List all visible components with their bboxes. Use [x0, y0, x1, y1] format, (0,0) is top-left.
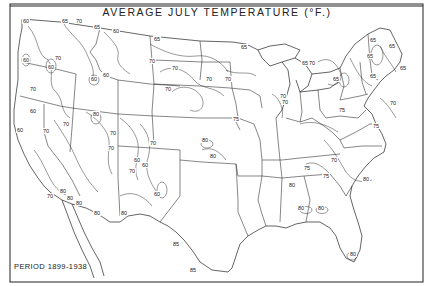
isotherm-label: 80 — [350, 251, 356, 257]
isotherm-label: 60 — [113, 28, 119, 34]
isotherm-label: 65 — [367, 53, 373, 59]
map-title: AVERAGE JULY TEMPERATURE (°F.) — [0, 6, 434, 18]
isotherm-label: 70 — [282, 99, 288, 105]
period-label: PERIOD 1899-1938 — [14, 262, 87, 271]
isotherm-label: 60 — [23, 18, 29, 24]
isotherm-label: 70 — [331, 157, 337, 163]
isotherm-label: 60 — [142, 162, 148, 168]
isotherm-label: 65 — [241, 44, 247, 50]
isotherm-label: 75 — [304, 165, 310, 171]
isotherm-label: 70 — [206, 76, 212, 82]
isotherm-label: 70 — [165, 86, 171, 92]
isotherm-label: 80 — [210, 153, 216, 159]
isotherm-label: 60 — [154, 191, 160, 197]
isotherm-label: 65 — [94, 24, 100, 30]
isotherm-label: 60 — [48, 64, 54, 70]
isotherm-label: 60 — [17, 127, 23, 133]
isotherm-label: 70 — [63, 121, 69, 127]
isotherm-label: 65 — [370, 73, 376, 79]
isotherm-label: 80 — [94, 210, 100, 216]
isotherm-label: 65 — [154, 36, 160, 42]
isotherm-label: 80 — [76, 200, 82, 206]
isotherm-label: 75 — [373, 123, 379, 129]
isotherm-label: 65 — [333, 76, 339, 82]
isotherm-label: 60 — [103, 72, 109, 78]
isotherm-label: 60 — [91, 76, 97, 82]
isotherm-label: 65 — [302, 60, 308, 66]
isotherm-label: 70 — [225, 76, 231, 82]
isotherm-label: 80 — [121, 210, 127, 216]
isotherm-label: 75 — [323, 173, 329, 179]
isotherm-label: 70 — [108, 145, 114, 151]
isotherm-label: 70 — [172, 65, 178, 71]
isotherm-label: 80 — [60, 188, 66, 194]
isotherm-label: 70 — [30, 86, 36, 92]
map-drawing: 6065706560706060606065707070707065707075… — [0, 0, 434, 286]
isotherm-label: 80 — [363, 176, 369, 182]
isotherm-label: 65 — [370, 37, 376, 43]
isotherm-label: 85 — [190, 267, 196, 273]
isotherm-label: 60 — [30, 108, 36, 114]
isotherm-label: 70 — [47, 193, 53, 199]
isotherm-label: 85 — [173, 241, 179, 247]
temperature-map: 6065706560706060606065707070707065707075… — [0, 0, 434, 286]
isotherm-label: 70 — [129, 168, 135, 174]
isotherm-label: 70 — [149, 58, 155, 64]
isotherm-label: 65 — [400, 65, 406, 71]
isotherm-label: 70 — [76, 18, 82, 24]
isotherm-label: 80 — [202, 137, 208, 143]
isotherm-label: 70 — [55, 55, 61, 61]
isotherm-label: 60 — [134, 157, 140, 163]
isotherm-label: 70 — [390, 100, 396, 106]
isotherm-label: 75 — [339, 107, 345, 113]
isotherm-label: 70 — [150, 140, 156, 146]
isotherm-label: 80 — [318, 205, 324, 211]
isotherm-label: 80 — [93, 111, 99, 117]
isotherm-label: 80 — [67, 195, 73, 201]
isotherm-label: 65 — [62, 18, 68, 24]
isotherm-label: 75 — [233, 116, 239, 122]
isotherm-label-layer: 6065706560706060606065707070707065707075… — [16, 18, 407, 273]
isotherm-label: 70 — [309, 60, 315, 66]
isotherm-label: 80 — [298, 205, 304, 211]
isotherm-label: 60 — [23, 57, 29, 63]
isotherm-label: 80 — [289, 182, 295, 188]
isotherm-label: 70 — [110, 130, 116, 136]
isotherm-label: 65 — [389, 43, 395, 49]
isotherm-label: 70 — [43, 128, 49, 134]
